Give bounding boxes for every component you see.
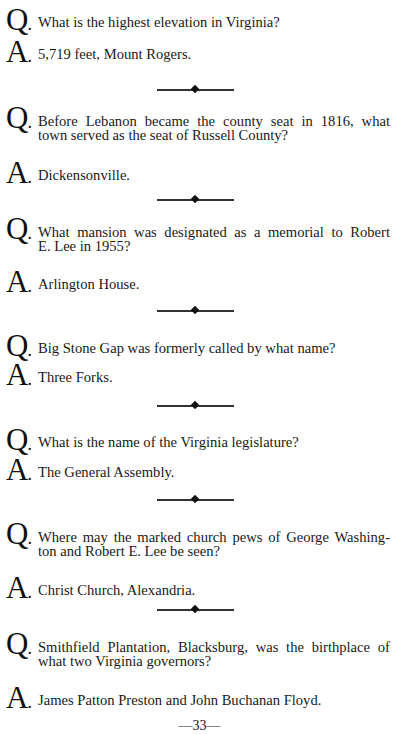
answer-text: Arlington House.	[38, 277, 390, 291]
answer-marker: A.	[6, 456, 31, 488]
question-marker: Q.	[6, 520, 31, 552]
diamond-ornament-icon	[191, 85, 199, 93]
answer-text: 5,719 feet, Mount Rogers.	[38, 47, 390, 61]
answer-marker: A.	[6, 268, 31, 300]
answer-marker: A.	[6, 38, 31, 70]
diamond-ornament-icon	[191, 195, 199, 203]
answer-marker: A.	[6, 684, 31, 716]
question-text: What is the name of the Virginia legisla…	[38, 435, 390, 449]
question-text: Before Lebanon became the county seat in…	[38, 114, 390, 142]
section-divider	[157, 85, 234, 95]
question-marker: Q.	[6, 104, 31, 136]
question-text: Smithfield Plantation, Blacksburg, was t…	[38, 640, 390, 668]
diamond-ornament-icon	[191, 495, 199, 503]
answer-text: Dickensonville.	[38, 168, 390, 182]
diamond-ornament-icon	[191, 605, 199, 613]
answer-text: Three Forks.	[38, 370, 390, 384]
question-marker: Q.	[6, 215, 31, 247]
question-marker: Q.	[6, 630, 31, 662]
section-divider	[157, 495, 234, 505]
answer-text: James Patton Preston and John Buchanan F…	[38, 693, 390, 707]
section-divider	[157, 195, 234, 205]
question-text: Big Stone Gap was formerly called by wha…	[38, 341, 390, 355]
question-text: What is the highest elevation in Virgini…	[38, 15, 390, 29]
question-text: What mansion was designated as a memoria…	[38, 225, 390, 253]
section-divider	[157, 605, 234, 615]
answer-marker: A.	[6, 361, 31, 393]
diamond-ornament-icon	[191, 306, 199, 314]
answer-text: Christ Church, Alexandria.	[38, 583, 390, 597]
answer-text: The General Assembly.	[38, 465, 390, 479]
page-number: —33—	[0, 718, 399, 734]
answer-marker: A.	[6, 159, 31, 191]
section-divider	[157, 306, 234, 316]
question-text: Where may the marked church pews of Geor…	[38, 530, 390, 558]
section-divider	[157, 401, 234, 411]
diamond-ornament-icon	[191, 401, 199, 409]
answer-marker: A.	[6, 574, 31, 606]
